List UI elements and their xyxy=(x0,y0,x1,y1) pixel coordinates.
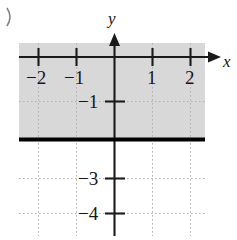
x-axis-label: x xyxy=(223,53,231,70)
x-tick-label-neg2: −2 xyxy=(26,68,46,87)
x-tick-label-neg1: −1 xyxy=(64,68,84,87)
figure-tag-arc xyxy=(7,8,10,26)
x-tick-label-1: 1 xyxy=(147,68,157,87)
y-tick-label-neg1: −1 xyxy=(78,92,98,111)
graph-figure: y x −2 −1 1 2 −1 −3 −4 xyxy=(0,0,237,240)
coordinate-plane-svg xyxy=(0,0,237,240)
y-tick-label-neg3: −3 xyxy=(78,169,98,188)
y-tick-label-neg4: −4 xyxy=(78,204,98,223)
x-tick-label-2: 2 xyxy=(185,68,195,87)
y-axis-label: y xyxy=(108,10,116,27)
